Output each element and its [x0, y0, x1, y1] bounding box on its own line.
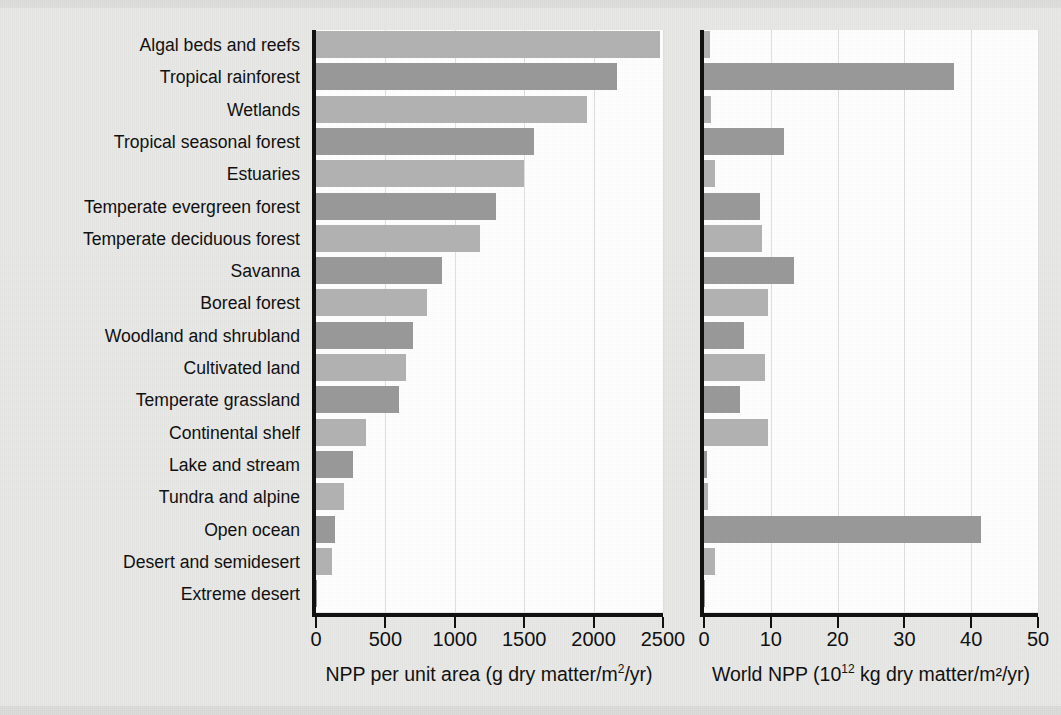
- bar: [704, 483, 708, 510]
- gridline: [663, 30, 664, 612]
- category-label: Cultivated land: [184, 351, 300, 385]
- bar: [704, 63, 954, 90]
- category-label: Continental shelf: [169, 416, 300, 450]
- category-label: Extreme desert: [181, 577, 300, 611]
- category-label: Temperate grassland: [136, 383, 300, 417]
- bar: [704, 289, 768, 316]
- right-axis-tick: [837, 617, 839, 628]
- bar: [316, 289, 427, 316]
- right-axis-tick: [770, 617, 772, 628]
- page-top-edge: [0, 0, 1061, 8]
- bar: [316, 322, 413, 349]
- right-panel-y-axis: [700, 30, 704, 615]
- bar: [316, 63, 617, 90]
- bar: [316, 548, 332, 575]
- right-axis-tick: [903, 617, 905, 628]
- bar: [316, 516, 335, 543]
- left-axis-tick-label: 1500: [502, 628, 547, 651]
- right-axis-tick-label: 10: [760, 628, 782, 651]
- bar: [704, 516, 981, 543]
- category-label: Savanna: [231, 254, 300, 288]
- right-axis-title-post: kg dry matter/m²/yr): [855, 663, 1031, 685]
- right-axis-tick-label: 20: [826, 628, 848, 651]
- bar: [316, 419, 366, 446]
- right-axis-tick: [970, 617, 972, 628]
- left-axis-tick-label: 500: [369, 628, 402, 651]
- bar: [704, 160, 715, 187]
- category-label: Tropical seasonal forest: [114, 125, 300, 159]
- right-axis-title: World NPP (1012 kg dry matter/m²/yr): [712, 662, 1030, 686]
- left-axis-tick-label: 1000: [433, 628, 478, 651]
- bar: [316, 128, 534, 155]
- category-label: Tundra and alpine: [159, 480, 300, 514]
- bar: [704, 96, 711, 123]
- left-axis-tick: [662, 617, 664, 628]
- bar: [704, 193, 760, 220]
- left-axis-tick-label: 2500: [641, 628, 686, 651]
- bar: [704, 31, 710, 58]
- bar: [704, 128, 784, 155]
- right-axis-title-exponent: 12: [841, 662, 854, 676]
- bar: [316, 160, 524, 187]
- category-label: Temperate deciduous forest: [83, 222, 300, 256]
- bar: [704, 580, 705, 607]
- category-label: Tropical rainforest: [160, 60, 300, 94]
- category-label-column: Algal beds and reefsTropical rainforestW…: [0, 30, 308, 612]
- left-axis-title-pre: NPP per unit area (g dry matter/m: [325, 663, 617, 685]
- right-axis-tick-label: 0: [698, 628, 709, 651]
- left-panel-x-axis: [312, 613, 663, 617]
- category-label: Temperate evergreen forest: [84, 190, 300, 224]
- bar: [704, 322, 744, 349]
- left-axis-title-exponent: 2: [618, 662, 625, 676]
- category-label: Estuaries: [227, 157, 300, 191]
- category-label: Lake and stream: [169, 448, 300, 482]
- bar: [316, 96, 587, 123]
- left-axis-tick: [384, 617, 386, 628]
- bar: [704, 451, 707, 478]
- category-label: Wetlands: [227, 93, 300, 127]
- bar: [316, 257, 442, 284]
- bar: [316, 483, 344, 510]
- bar: [316, 193, 496, 220]
- category-label: Woodland and shrubland: [105, 319, 300, 353]
- bar: [316, 386, 399, 413]
- left-axis-title: NPP per unit area (g dry matter/m2/yr): [325, 662, 652, 686]
- category-label: Algal beds and reefs: [140, 28, 300, 62]
- category-label: Desert and semidesert: [123, 545, 300, 579]
- left-axis-tick: [454, 617, 456, 628]
- right-axis-title-pre: World NPP (10: [712, 663, 841, 685]
- page-bottom-edge: [0, 706, 1061, 715]
- gridline: [1038, 30, 1039, 612]
- figure-root: Algal beds and reefsTropical rainforestW…: [0, 0, 1061, 715]
- gridline: [594, 30, 595, 612]
- left-axis-title-post: /yr): [624, 663, 652, 685]
- bar: [704, 257, 794, 284]
- left-axis-tick: [523, 617, 525, 628]
- bar: [316, 354, 406, 381]
- right-axis-tick: [703, 617, 705, 628]
- right-panel-x-axis: [700, 613, 1038, 617]
- category-label: Boreal forest: [200, 286, 300, 320]
- right-axis-tick-label: 40: [960, 628, 982, 651]
- left-panel-y-axis: [312, 30, 316, 615]
- right-axis-tick: [1037, 617, 1039, 628]
- bar: [704, 354, 765, 381]
- bar: [316, 580, 317, 607]
- bar: [316, 451, 353, 478]
- bar: [316, 225, 480, 252]
- category-label: Open ocean: [204, 513, 300, 547]
- left-axis-tick: [315, 617, 317, 628]
- bar: [704, 386, 740, 413]
- bar: [704, 419, 768, 446]
- right-axis-tick-label: 50: [1027, 628, 1049, 651]
- left-axis-tick-label: 2000: [571, 628, 616, 651]
- bar: [316, 31, 660, 58]
- bar: [704, 225, 762, 252]
- left-axis-tick: [593, 617, 595, 628]
- left-axis-tick-label: 0: [310, 628, 321, 651]
- bar: [704, 548, 715, 575]
- right-axis-tick-label: 30: [893, 628, 915, 651]
